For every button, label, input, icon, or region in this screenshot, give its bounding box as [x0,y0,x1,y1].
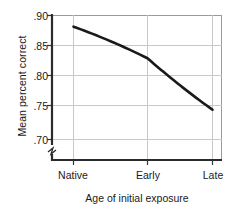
x-axis-title: Age of initial exposure [52,192,222,204]
x-axis-tick-labels: Native Early Late [0,0,239,215]
x-tick-label: Late [203,169,223,181]
chart-figure: Mean percent correct .90 .85 .80 .75 .70 [0,0,239,215]
x-tick-label: Early [136,169,160,181]
x-tick-label: Native [58,169,88,181]
